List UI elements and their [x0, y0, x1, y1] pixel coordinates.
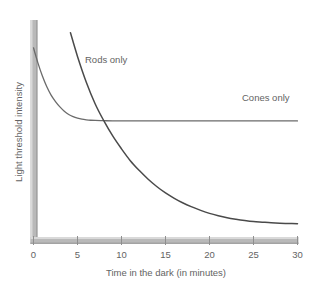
cones-only-label: Cones only [242, 92, 290, 103]
cones-only-curve [34, 48, 298, 121]
x-tick-label-25: 25 [248, 249, 259, 260]
x-tick-label-30: 30 [292, 249, 303, 260]
x-axis-bar-shade [31, 243, 299, 245]
x-tick-label-20: 20 [204, 249, 215, 260]
axes-group [31, 20, 299, 244]
dark-adaptation-chart: 0 5 10 15 20 25 30 Rods only Cones only … [0, 0, 318, 290]
chart-canvas: 0 5 10 15 20 25 30 Rods only Cones only … [0, 0, 318, 290]
x-tick-label-15: 15 [160, 249, 171, 260]
x-tick-label-0: 0 [31, 249, 36, 260]
series-group [34, 33, 298, 224]
x-axis-title: Time in the dark (in minutes) [106, 267, 226, 278]
x-axis-bar-highlight [31, 237, 299, 239]
x-tick-label-10: 10 [116, 249, 127, 260]
y-axis-bar-shade [36, 20, 38, 244]
y-axis-bar-highlight [31, 20, 33, 244]
rods-only-label: Rods only [85, 54, 127, 65]
y-axis-title: Light threshold intensity [13, 82, 24, 182]
x-tick-label-5: 5 [75, 249, 80, 260]
x-tick-labels: 0 5 10 15 20 25 30 [31, 249, 303, 260]
